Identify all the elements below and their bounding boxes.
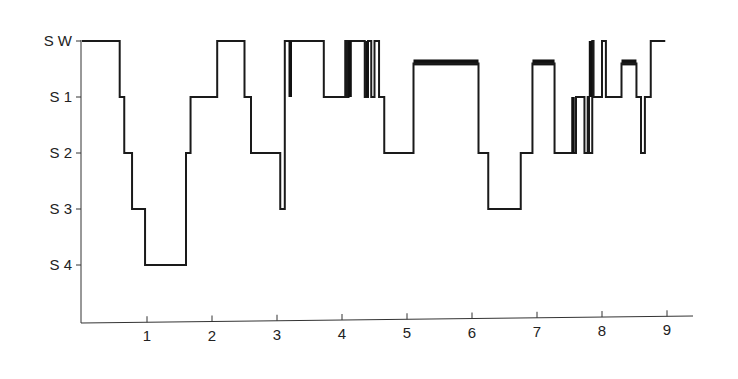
x-tick-label: 9 (663, 321, 671, 338)
y-ticks: S WS 1S 2S 3S 4 (44, 32, 81, 273)
y-tick-label: S 2 (49, 144, 72, 161)
x-tick-label: 3 (273, 326, 281, 343)
x-tick-label: 6 (468, 324, 476, 341)
dense-transition (289, 41, 293, 97)
x-tick-label: 2 (208, 327, 216, 344)
x-tick-label: 7 (533, 323, 541, 340)
sleep-stage-trace (82, 41, 665, 265)
x-tick-label: 4 (338, 325, 346, 342)
x-ticks: 123456789 (143, 310, 671, 344)
y-tick-label: S 3 (49, 200, 72, 217)
dense-transition (348, 41, 352, 97)
dense-transition (571, 97, 575, 153)
x-tick-label: 1 (143, 327, 151, 344)
x-tick-label: 5 (403, 324, 411, 341)
y-tick-label: S 4 (49, 256, 72, 273)
y-tick-label: S 1 (49, 88, 72, 105)
y-tick-label: S W (44, 32, 73, 49)
hypnogram-chart: S WS 1S 2S 3S 4 123456789 (0, 0, 738, 379)
dense-transition (589, 41, 593, 97)
dense-transition (365, 41, 369, 97)
x-tick-label: 8 (598, 322, 606, 339)
